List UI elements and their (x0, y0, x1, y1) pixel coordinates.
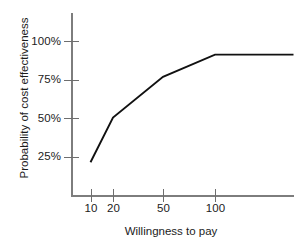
plot-area (0, 0, 300, 247)
acceptability-curve-line (91, 55, 294, 163)
chart-figure: 100% 75% 50% 25% 10 20 50 100 Willingnes… (0, 0, 300, 247)
